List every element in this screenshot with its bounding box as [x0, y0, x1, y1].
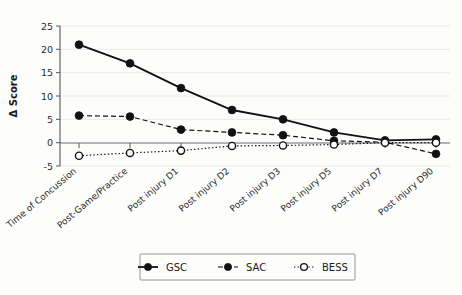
data-point: [228, 106, 236, 114]
legend: GSCSACBESS: [138, 262, 348, 273]
data-point: [228, 142, 235, 149]
data-point: [177, 84, 185, 92]
y-tick-label: -5: [44, 161, 53, 172]
y-tick-label: 25: [41, 21, 53, 32]
x-category-label: Post injury D90: [376, 166, 435, 218]
data-point: [330, 129, 338, 137]
series-line: [79, 116, 436, 154]
x-category-label: Post injury D1: [126, 166, 180, 214]
legend-label-bess: BESS: [322, 262, 348, 273]
gridlines: [60, 26, 450, 166]
x-category-label: Post injury D5: [279, 166, 333, 214]
y-tick-label: 5: [47, 114, 53, 125]
data-point: [75, 41, 83, 49]
data-point: [126, 59, 134, 67]
series-layer: [75, 41, 440, 160]
legend-label-sac: SAC: [246, 262, 266, 273]
data-point: [177, 126, 185, 134]
y-tick-label: 0: [47, 137, 53, 148]
x-category-label: Post injury D2: [177, 166, 231, 214]
data-point: [381, 139, 388, 146]
x-axis-category-labels: Time of ConcussionPost-Game/PracticePost…: [4, 166, 436, 231]
y-axis-title: Δ Score: [8, 74, 19, 117]
data-point: [432, 139, 439, 146]
data-point: [279, 131, 287, 139]
y-tick-label: 20: [41, 44, 53, 55]
data-point: [279, 142, 286, 149]
line-chart: Δ Score -50510152025 Time of ConcussionP…: [0, 0, 462, 295]
y-tick-label: 15: [41, 67, 53, 78]
series-bess: [75, 139, 439, 159]
legend-marker-bess: [301, 264, 308, 271]
series-line: [79, 45, 436, 141]
data-point: [75, 152, 82, 159]
series-gsc: [75, 41, 440, 144]
data-point: [177, 147, 184, 154]
data-point: [228, 129, 236, 137]
data-point: [75, 112, 83, 120]
x-category-label: Post injury D7: [330, 166, 384, 214]
x-category-label: Post injury D3: [228, 166, 282, 214]
data-point: [279, 115, 287, 123]
data-point: [126, 149, 133, 156]
legend-marker-gsc: [144, 263, 151, 270]
legend-marker-sac: [224, 263, 231, 270]
chart-figure: Δ Score -50510152025 Time of ConcussionP…: [0, 0, 462, 295]
legend-label-gsc: GSC: [166, 262, 187, 273]
y-tick-label: 10: [41, 91, 53, 102]
data-point: [126, 113, 134, 121]
y-axis-ticks: -50510152025: [41, 21, 60, 172]
data-point: [432, 150, 440, 158]
data-point: [330, 141, 337, 148]
